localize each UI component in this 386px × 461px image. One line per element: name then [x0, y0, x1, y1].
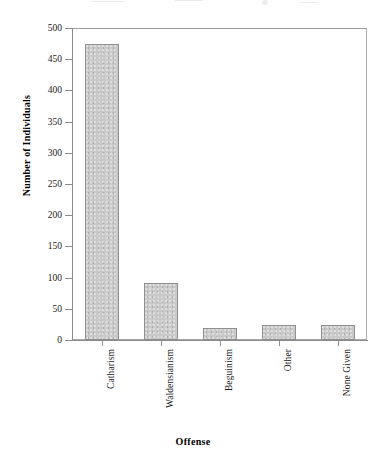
y-axis-tick [65, 184, 72, 185]
scan-artifact [262, 0, 268, 5]
bar [85, 44, 119, 340]
x-axis-tick [161, 341, 162, 346]
y-axis-tick [65, 153, 72, 154]
bar [203, 328, 237, 340]
scan-artifact [175, 0, 203, 1]
y-axis-tick-label: 0 [18, 335, 62, 345]
y-axis-tick [65, 215, 72, 216]
y-axis-tick [65, 90, 72, 91]
scan-artifact [300, 2, 318, 3]
bar [321, 325, 355, 340]
y-axis-tick [65, 28, 72, 29]
x-axis-tick [102, 341, 103, 346]
y-axis-tick-label: 450 [18, 54, 62, 64]
y-axis-tick [65, 122, 72, 123]
x-axis-category-label: Catharism [106, 349, 116, 389]
y-axis-tick [65, 309, 72, 310]
y-axis-tick [65, 59, 72, 60]
x-axis-category-label: Beguinism [224, 349, 234, 391]
x-axis-category-label: Other [283, 349, 293, 371]
x-axis-tick [279, 341, 280, 346]
y-axis-title: Number of Individuals [21, 76, 32, 216]
x-axis-tick [338, 341, 339, 346]
y-axis-tick [65, 246, 72, 247]
y-axis-tick-label: 50 [18, 304, 62, 314]
x-axis-category-label: Waldensianism [165, 349, 175, 408]
x-axis-tick [220, 341, 221, 346]
bar [262, 325, 296, 340]
bar-chart-figure: 050100150200250300350400450500 Catharism… [0, 0, 386, 461]
scan-artifact [92, 1, 126, 2]
y-axis-tick-label: 500 [18, 23, 62, 33]
y-axis-tick-label: 150 [18, 241, 62, 251]
y-axis-tick-label: 100 [18, 273, 62, 283]
y-axis-tick [65, 340, 72, 341]
y-axis-tick [65, 278, 72, 279]
x-axis-title: Offense [0, 436, 386, 447]
x-axis-category-label: None Given [342, 349, 352, 396]
bar [144, 283, 178, 340]
y-axis-line [72, 28, 73, 341]
